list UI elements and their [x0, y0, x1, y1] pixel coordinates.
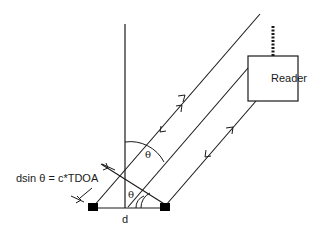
signal-path-middle [128, 68, 248, 207]
equation-label: dsin θ = c*TDOA [16, 172, 98, 184]
baseline-label: d [122, 213, 128, 225]
diagram-canvas [0, 0, 317, 237]
angle-label-top: θ [145, 149, 151, 160]
arrow-up-icon [176, 105, 182, 112]
reader-label: Reader [263, 72, 315, 84]
angle-arc-bottom-outer [136, 196, 144, 208]
angle-arc-bottom-inner [141, 193, 150, 208]
angle-label-bottom: θ [128, 189, 134, 200]
arrow-up-icon [178, 95, 185, 102]
antenna-left [88, 203, 98, 211]
dimension-line [80, 188, 92, 198]
signal-path-right [166, 101, 256, 205]
signal-path-left [93, 14, 260, 207]
antenna-right [160, 203, 170, 211]
